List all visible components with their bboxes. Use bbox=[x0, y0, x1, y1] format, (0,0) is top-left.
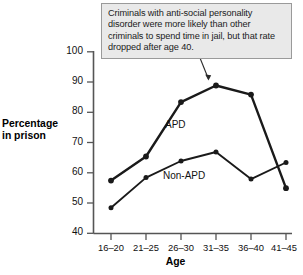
y-tick-label-60: 60 bbox=[57, 166, 83, 177]
x-axis-title: Age bbox=[0, 256, 303, 267]
y-tick-label-70: 70 bbox=[57, 136, 83, 147]
series-label-apd: APD bbox=[165, 119, 186, 130]
y-axis-ticks bbox=[87, 52, 94, 234]
series-label-non-apd: Non-APD bbox=[163, 170, 205, 181]
y-tick-label-50: 50 bbox=[57, 196, 83, 207]
y-tick-label-80: 80 bbox=[57, 105, 83, 116]
x-axis-title-text: Age bbox=[166, 256, 186, 267]
y-tick-label-40: 40 bbox=[57, 226, 83, 237]
y-axis-title-line1: Percentage bbox=[2, 118, 74, 130]
y-tick-label-90: 90 bbox=[57, 75, 83, 86]
callout-arrowhead bbox=[205, 75, 211, 81]
x-tick-label-41-45: 41–45 bbox=[262, 242, 303, 253]
callout-annotation: Criminals with anti-social personality d… bbox=[101, 3, 292, 59]
x-axis-ticks bbox=[111, 234, 286, 241]
callout-text: Criminals with anti-social personality d… bbox=[108, 8, 275, 52]
y-tick-label-100: 100 bbox=[57, 45, 83, 56]
chart-figure: Criminals with anti-social personality d… bbox=[0, 0, 303, 275]
